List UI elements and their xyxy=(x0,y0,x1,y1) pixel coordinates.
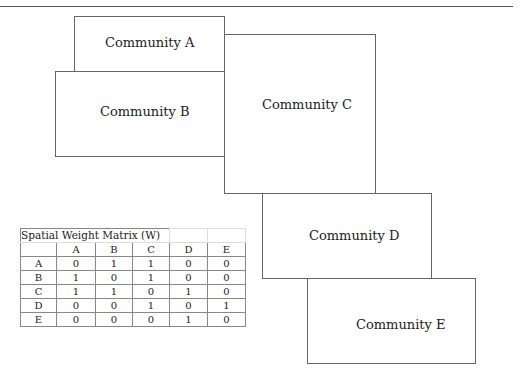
matrix-row: C 1 1 0 1 0 xyxy=(21,285,246,299)
matrix-cell: 0 xyxy=(96,299,133,313)
matrix-cell: 1 xyxy=(57,271,96,285)
matrix-row-label: E xyxy=(21,313,57,327)
matrix-cell: 1 xyxy=(133,271,170,285)
matrix-title: Spatial Weight Matrix (W) xyxy=(21,229,170,243)
matrix-cell: 0 xyxy=(208,257,246,271)
matrix-cell: 0 xyxy=(170,271,208,285)
matrix-cell: 0 xyxy=(208,271,246,285)
community-b-label: Community B xyxy=(100,104,190,119)
matrix-row-label: A xyxy=(21,257,57,271)
matrix-header-cell xyxy=(21,243,57,257)
top-divider-line xyxy=(0,6,513,7)
community-d-label: Community D xyxy=(309,228,399,243)
matrix-row-label: B xyxy=(21,271,57,285)
matrix-row: A 0 1 1 0 0 xyxy=(21,257,246,271)
matrix-cell: 1 xyxy=(57,285,96,299)
matrix-cell: 1 xyxy=(96,257,133,271)
community-c-region: Community C xyxy=(224,34,376,194)
matrix-cell: 0 xyxy=(170,299,208,313)
matrix-row-label: D xyxy=(21,299,57,313)
matrix-cell: 1 xyxy=(133,299,170,313)
matrix-title-empty-cell xyxy=(208,229,246,243)
matrix-cell: 1 xyxy=(208,299,246,313)
community-e-region: Community E xyxy=(307,278,476,364)
community-a-region: Community A xyxy=(74,16,225,72)
matrix-row: E 0 0 0 1 0 xyxy=(21,313,246,327)
matrix-cell: 0 xyxy=(96,313,133,327)
matrix-cell: 0 xyxy=(170,257,208,271)
spatial-weight-matrix-table: Spatial Weight Matrix (W) A B C D E A 0 … xyxy=(20,228,246,327)
matrix-cell: 0 xyxy=(57,299,96,313)
matrix-header-cell: E xyxy=(208,243,246,257)
community-d-region: Community D xyxy=(262,193,432,279)
matrix-cell: 0 xyxy=(133,285,170,299)
matrix-cell: 1 xyxy=(133,257,170,271)
community-a-label: Community A xyxy=(105,35,194,50)
matrix-header-cell: A xyxy=(57,243,96,257)
matrix-cell: 0 xyxy=(208,313,246,327)
matrix-row-label: C xyxy=(21,285,57,299)
matrix-cell: 0 xyxy=(57,257,96,271)
community-e-label: Community E xyxy=(356,317,446,332)
community-b-region: Community B xyxy=(55,71,226,157)
matrix-cell: 1 xyxy=(96,285,133,299)
matrix-header-cell: C xyxy=(133,243,170,257)
matrix-header-cell: D xyxy=(170,243,208,257)
matrix-cell: 0 xyxy=(133,313,170,327)
matrix-title-empty-cell xyxy=(170,229,208,243)
community-c-label: Community C xyxy=(262,97,352,112)
matrix-cell: 0 xyxy=(96,271,133,285)
matrix-row: D 0 0 1 0 1 xyxy=(21,299,246,313)
matrix-header-cell: B xyxy=(96,243,133,257)
matrix-cell: 0 xyxy=(57,313,96,327)
matrix-cell: 1 xyxy=(170,313,208,327)
matrix-cell: 1 xyxy=(170,285,208,299)
matrix-row: B 1 0 1 0 0 xyxy=(21,271,246,285)
matrix-cell: 0 xyxy=(208,285,246,299)
